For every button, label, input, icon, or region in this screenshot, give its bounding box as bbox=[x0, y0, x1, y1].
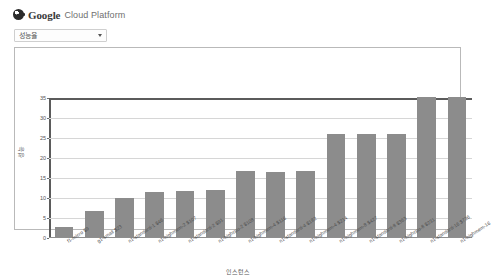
bar-series bbox=[49, 98, 472, 237]
y-tick-mark bbox=[47, 238, 49, 239]
bar[interactable] bbox=[85, 211, 104, 237]
bar-slot bbox=[109, 98, 139, 237]
bar-slot bbox=[230, 98, 260, 237]
chevron-down-icon bbox=[98, 34, 102, 37]
x-axis-title: 인스턴스 bbox=[15, 267, 460, 276]
bar-slot bbox=[261, 98, 291, 237]
brand-secondary-text: Cloud Platform bbox=[64, 9, 125, 21]
y-tick-label: 20 bbox=[40, 156, 46, 161]
bar-slot bbox=[200, 98, 230, 237]
bar-slot bbox=[140, 98, 170, 237]
bar-slot bbox=[291, 98, 321, 237]
bar-slot bbox=[49, 98, 79, 237]
y-tick-label: 35 bbox=[40, 96, 46, 101]
y-tick-label: 30 bbox=[40, 116, 46, 121]
plot-area: 05101520253035 bbox=[49, 98, 472, 238]
screenshot-root: Google Cloud Platform 성능율 성능 인스턴스 051015… bbox=[0, 0, 475, 239]
metric-select[interactable]: 성능율 bbox=[14, 29, 107, 42]
google-cloud-logo-icon bbox=[13, 9, 24, 20]
y-tick-label: 0 bbox=[43, 236, 46, 241]
bar-slot bbox=[381, 98, 411, 237]
y-tick-label: 10 bbox=[40, 196, 46, 201]
y-tick-label: 5 bbox=[43, 216, 46, 221]
chart-inner: 성능 인스턴스 05101520253035 f1-micro $9g1-sma… bbox=[15, 48, 460, 229]
app-header: Google Cloud Platform bbox=[13, 7, 125, 22]
y-tick-label: 15 bbox=[40, 176, 46, 181]
metric-select-value: 성능율 bbox=[19, 31, 37, 40]
bar-slot bbox=[79, 98, 109, 237]
bar-slot bbox=[412, 98, 442, 237]
brand-primary-text: Google bbox=[28, 9, 60, 21]
chart-container: 성능 인스턴스 05101520253035 f1-micro $9g1-sma… bbox=[14, 47, 461, 230]
y-tick-label: 25 bbox=[40, 136, 46, 141]
y-axis-title: 성능 bbox=[16, 146, 25, 158]
